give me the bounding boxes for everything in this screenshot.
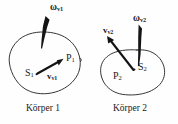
p2-subscript: 2 xyxy=(119,74,122,81)
omega-v2-subscript: v2 xyxy=(140,16,146,23)
s2-subscript: 2 xyxy=(144,65,147,72)
p2-label: P2 xyxy=(113,71,122,82)
body-1-caption: Körper 1 xyxy=(26,104,60,114)
v-v1-label: vv1 xyxy=(47,72,57,82)
s1-label: S1 xyxy=(25,68,34,79)
p1-label: P1 xyxy=(66,53,75,64)
v-v2-label: vv2 xyxy=(103,26,113,36)
omega-v2-label: ωv2 xyxy=(133,14,146,24)
s2-point-dot xyxy=(133,68,135,70)
mechanics-two-bodies-figure: ωv1 ωv2 vv1 vv2 S1 S2 P1 P2 Körper 1 Kör… xyxy=(0,0,178,124)
s1-subscript: 1 xyxy=(31,71,34,78)
omega-v2-base: ω xyxy=(133,13,140,23)
s2-label: S2 xyxy=(138,62,147,73)
omega-v1-base: ω xyxy=(50,2,57,12)
p1-subscript: 1 xyxy=(72,56,75,63)
omega-v2-arrow xyxy=(138,25,142,67)
v-v2-subscript: v2 xyxy=(108,29,114,35)
body-2-outline xyxy=(101,50,165,95)
omega-v1-subscript: v1 xyxy=(57,5,63,12)
s1-point-dot xyxy=(36,73,38,75)
v-v1-subscript: v1 xyxy=(52,75,58,81)
body-2-caption: Körper 2 xyxy=(113,104,147,114)
v-v2-arrow xyxy=(107,36,134,70)
omega-v1-label: ωv1 xyxy=(50,3,63,13)
